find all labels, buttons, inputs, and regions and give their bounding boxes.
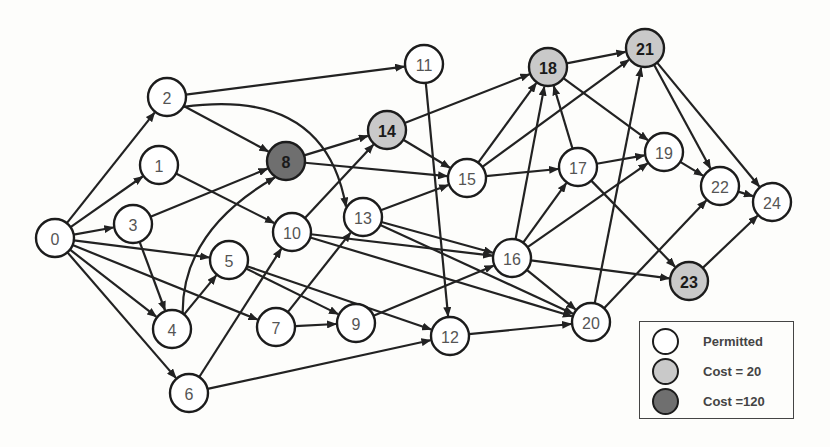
legend-label: Cost = 20 <box>703 364 761 379</box>
edge-16-18 <box>516 87 545 240</box>
edge-8-14 <box>304 136 368 156</box>
edge-6-12 <box>208 340 431 389</box>
node-label: 21 <box>636 41 654 58</box>
edge-16-17 <box>523 183 566 242</box>
node-label: 24 <box>763 195 781 212</box>
node-label: 16 <box>503 251 521 268</box>
edge-15-18 <box>478 83 536 162</box>
node-2: 2 <box>148 78 186 116</box>
node-label: 19 <box>655 145 673 162</box>
edge-15-17 <box>486 169 558 176</box>
node-3: 3 <box>114 205 152 243</box>
edge-2-8 <box>184 106 269 152</box>
node-0: 0 <box>36 219 74 257</box>
edge-23-24 <box>703 216 758 268</box>
legend-item-permitted: Permitted <box>652 326 763 356</box>
node-label: 22 <box>711 179 729 196</box>
node-14: 14 <box>368 111 406 149</box>
node-20: 20 <box>572 303 610 341</box>
edge-12-20 <box>469 324 571 334</box>
node-label: 3 <box>129 217 138 234</box>
legend-label: Permitted <box>703 334 763 349</box>
node-label: 12 <box>441 329 459 346</box>
node-23: 23 <box>670 262 708 300</box>
edge-0-3 <box>74 228 114 235</box>
edge-8-15 <box>305 163 447 176</box>
edge-17-18 <box>554 86 573 149</box>
node-19: 19 <box>645 133 683 171</box>
edge-14-15 <box>403 140 450 168</box>
legend-item-cost-120: Cost =120 <box>652 386 765 416</box>
node-label: 11 <box>416 57 433 74</box>
node-label: 6 <box>185 386 194 403</box>
legend: Permitted Cost = 20 Cost =120 <box>639 321 794 419</box>
node-label: 15 <box>458 171 476 188</box>
node-24: 24 <box>753 183 791 221</box>
node-4: 4 <box>153 310 191 348</box>
node-17: 17 <box>559 148 597 186</box>
node-label: 1 <box>155 158 164 175</box>
permitted-swatch-icon <box>652 328 679 355</box>
node-label: 5 <box>225 253 234 270</box>
edge-19-22 <box>680 162 703 176</box>
node-13: 13 <box>344 198 382 236</box>
node-16: 16 <box>493 239 531 277</box>
node-10: 10 <box>273 213 311 251</box>
node-9: 9 <box>337 304 375 342</box>
node-label: 17 <box>569 160 587 177</box>
node-15: 15 <box>448 159 486 197</box>
node-8: 8 <box>267 142 305 180</box>
edge-7-9 <box>295 324 336 326</box>
node-6: 6 <box>170 374 208 412</box>
edge-18-19 <box>563 78 648 140</box>
node-22: 22 <box>701 167 739 205</box>
node-label: 7 <box>272 320 281 337</box>
node-label: 18 <box>539 60 557 77</box>
node-5: 5 <box>210 241 248 279</box>
node-label: 20 <box>582 315 600 332</box>
edge-4-5 <box>184 275 216 314</box>
cost-120-swatch-icon <box>652 388 679 415</box>
cost-20-swatch-icon <box>652 358 679 385</box>
node-label: 13 <box>354 210 372 227</box>
node-18: 18 <box>529 48 567 86</box>
node-label: 14 <box>378 123 396 140</box>
node-label: 0 <box>51 231 60 248</box>
edge-2-11 <box>186 67 404 95</box>
edge-11-12 <box>426 83 448 316</box>
node-11: 11 <box>405 45 443 83</box>
legend-label: Cost =120 <box>703 394 765 409</box>
edge-22-24 <box>738 192 753 197</box>
edge-18-21 <box>567 52 626 64</box>
node-label: 9 <box>352 316 361 333</box>
node-7: 7 <box>257 308 295 346</box>
legend-item-cost-20: Cost = 20 <box>652 356 761 386</box>
node-21: 21 <box>626 29 664 67</box>
node-12: 12 <box>431 317 469 355</box>
edge-9-16 <box>374 266 494 316</box>
node-label: 8 <box>282 154 291 171</box>
node-1: 1 <box>140 146 178 184</box>
edge-20-21 <box>595 68 641 304</box>
node-label: 4 <box>168 322 177 339</box>
edge-17-19 <box>597 155 645 163</box>
node-label: 2 <box>163 90 172 107</box>
node-label: 10 <box>283 225 301 242</box>
node-label: 23 <box>680 274 698 291</box>
